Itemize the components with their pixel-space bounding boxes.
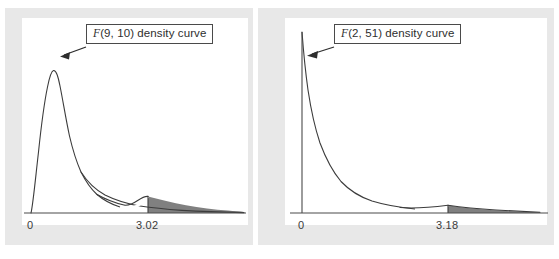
tick-label-left-critical: 3.02 bbox=[136, 219, 158, 231]
tick-label-right-critical: 3.18 bbox=[436, 219, 458, 231]
tick-label-right-zero: 0 bbox=[298, 219, 304, 231]
callout-label-left: F(9, 10) density curve bbox=[86, 24, 213, 44]
callout-params-right: (2, 51) bbox=[348, 27, 382, 39]
callout-text-left: density curve bbox=[134, 27, 206, 39]
callout-params-left: (9, 10) bbox=[100, 27, 134, 39]
figure-container: F(9, 10) density curve F(2, 51) density … bbox=[0, 0, 559, 259]
plot-area-left bbox=[22, 18, 248, 225]
callout-label-right: F(2, 51) density curve bbox=[334, 24, 461, 44]
tick-label-left-zero: 0 bbox=[27, 219, 33, 231]
plot-area-right bbox=[285, 18, 547, 225]
callout-text-right: density curve bbox=[382, 27, 454, 39]
